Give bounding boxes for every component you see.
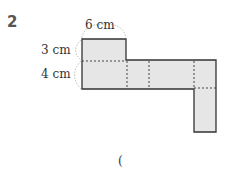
bottom-flap — [194, 88, 216, 132]
top-face — [82, 39, 126, 61]
width-label: 6 cm — [85, 18, 115, 32]
height-bottom-label: 4 cm — [41, 67, 71, 81]
height-bottom-brace — [75, 61, 82, 89]
height-top-label: 3 cm — [41, 43, 71, 57]
answer-paren: ( — [118, 154, 123, 168]
box-net-diagram: 6 cm 3 cm 4 cm ( — [0, 0, 226, 173]
height-top-brace — [76, 40, 82, 60]
